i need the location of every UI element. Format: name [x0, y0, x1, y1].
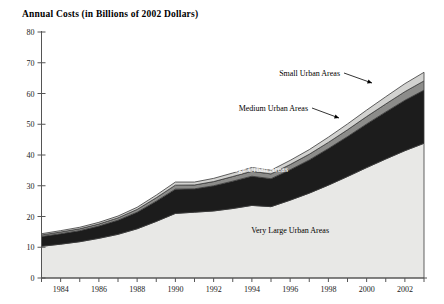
y-tick-label: 50 [27, 120, 35, 129]
x-tick-label: 1990 [167, 285, 183, 294]
series-annotation-large-urban-areas: Large Urban Areas [227, 165, 288, 174]
x-tick-label: 1994 [244, 285, 260, 294]
x-tick-label: 1998 [320, 285, 336, 294]
x-tick-label: 1986 [91, 285, 107, 294]
y-tick-label: 30 [27, 182, 35, 191]
y-tick-label: 40 [27, 151, 35, 160]
x-tick-label: 1992 [206, 285, 222, 294]
series-annotation-very-large-urban-areas: Very Large Urban Areas [251, 226, 329, 235]
x-tick-label: 2000 [359, 285, 375, 294]
y-tick-label: 70 [27, 59, 35, 68]
leader-lines-group [312, 73, 372, 119]
y-tick-label: 10 [27, 243, 35, 252]
area-series-group [42, 72, 425, 278]
y-tick-label: 60 [27, 90, 35, 99]
chart-container: Annual Costs (in Billions of 2002 Dollar… [0, 0, 444, 304]
x-tick-label: 1984 [53, 285, 69, 294]
x-tick-label: 2002 [397, 285, 413, 294]
y-tick-label: 0 [31, 274, 35, 283]
series-annotation-small-urban-areas: Small Urban Areas [279, 69, 340, 78]
x-tick-label: 1996 [282, 285, 298, 294]
series-annotation-medium-urban-areas: Medium Urban Areas [239, 104, 308, 113]
y-tick-label: 80 [27, 28, 35, 37]
x-tick-label: 1988 [129, 285, 145, 294]
stacked-area-chart: 0102030405060708019841986198819901992199… [0, 0, 444, 304]
y-tick-label: 20 [27, 213, 35, 222]
